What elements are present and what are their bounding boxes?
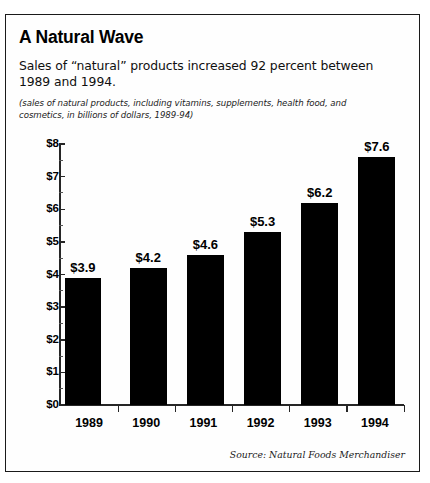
y-tick-label: $1 (25, 366, 59, 378)
y-tick-label: $8 (25, 138, 59, 150)
bar (65, 278, 102, 405)
bar-chart-plot: $0$1$2$3$4$5$6$7$8 $3.9$4.2$4.6$5.3$6.2$… (6, 15, 421, 473)
y-tick-label-wrap: $3 (6, 301, 59, 313)
x-tick (346, 405, 347, 412)
y-tick-label: $3 (25, 301, 59, 313)
y-tick-label-wrap: $0 (6, 399, 59, 411)
y-tick-major (59, 143, 65, 145)
bar (244, 232, 281, 405)
x-tick (404, 405, 405, 412)
y-tick-label: $6 (25, 203, 59, 215)
y-tick-label: $2 (25, 334, 59, 346)
x-tick (175, 405, 176, 412)
bar-value-label: $5.3 (234, 215, 291, 228)
x-tick (232, 405, 233, 412)
bar-value-label: $4.2 (120, 251, 177, 264)
y-tick-major (59, 274, 65, 276)
y-tick-label-wrap: $5 (6, 236, 59, 248)
y-tick-major (59, 176, 65, 178)
bar (187, 255, 224, 405)
x-tick (118, 405, 119, 412)
y-tick-minor (59, 388, 63, 389)
y-tick-minor (59, 290, 63, 291)
x-tick (289, 405, 290, 412)
bar (301, 203, 338, 405)
bar-value-label: $3.9 (55, 261, 112, 274)
y-tick-minor (59, 225, 63, 226)
y-tick-label-wrap: $6 (6, 203, 59, 215)
bar-value-label: $6.2 (291, 186, 348, 199)
y-tick-minor (59, 323, 63, 324)
y-tick-minor (59, 192, 63, 193)
y-tick-label-wrap: $4 (6, 269, 59, 281)
y-tick-label: $0 (25, 399, 59, 411)
y-tick-label-wrap: $1 (6, 366, 59, 378)
bar (130, 268, 167, 405)
y-tick-label-wrap: $8 (6, 138, 59, 150)
x-tick-label: 1994 (340, 417, 409, 430)
y-tick-label-wrap: $7 (6, 171, 59, 183)
y-tick-major (59, 241, 65, 243)
y-tick-minor (59, 356, 63, 357)
bar-value-label: $4.6 (177, 238, 234, 251)
source-note: Source: Natural Foods Merchandiser (230, 449, 405, 461)
y-tick-label-wrap: $2 (6, 334, 59, 346)
bar (358, 157, 395, 405)
y-tick-minor (59, 160, 63, 161)
y-tick-label: $7 (25, 171, 59, 183)
y-tick-minor (59, 258, 63, 259)
bar-value-label: $7.6 (348, 140, 405, 153)
y-tick-major (59, 209, 65, 211)
chart-card: A Natural Wave Sales of “natural” produc… (5, 14, 420, 472)
y-tick-label: $5 (25, 236, 59, 248)
